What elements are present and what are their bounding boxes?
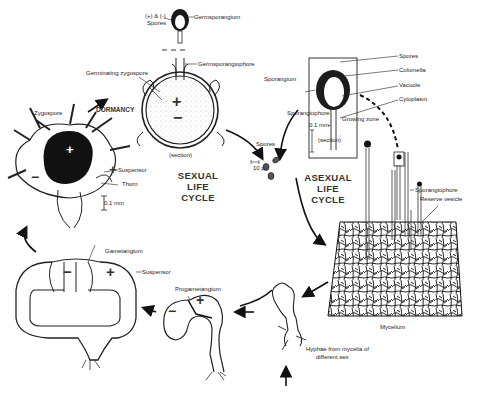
germ-zygospore-minus-sign: − xyxy=(173,112,183,123)
label-spores-center: Spores xyxy=(256,141,275,148)
label-vacuole: Vacuole xyxy=(399,82,420,89)
label-hyphae-line2: different sex xyxy=(316,354,349,361)
label-section-sexual: (section) xyxy=(169,152,192,159)
label-germsporangium: Germsporangium xyxy=(194,14,240,21)
label-thorn: Thorn xyxy=(122,181,138,188)
gametangium-minus-sign: − xyxy=(63,266,72,277)
label-hyphae-line1: Hyphae from mycelia of xyxy=(306,346,369,353)
label-sporangium: Sporangium xyxy=(264,76,296,83)
title-line: LIFE xyxy=(298,183,358,194)
label-scale-zygospore: 0.1 mm xyxy=(104,200,124,207)
label-germinating-zygospore: Germinating zygospore xyxy=(86,70,148,77)
germ-zygospore-plus-sign: + xyxy=(172,96,182,107)
label-suspensor-zygospore: Suspensor xyxy=(118,167,147,174)
label-cytoplasm: Cytoplasm xyxy=(399,96,427,103)
title-line: CYCLE xyxy=(168,192,228,203)
progametangium-plus-sign: + xyxy=(196,295,204,306)
label-spores-asexual: Spores xyxy=(399,53,418,60)
label-germsporangiophore: Germsporangiophore xyxy=(198,61,255,68)
label-suspensor-gametangium: Suspensor xyxy=(142,269,171,276)
progametangium-minus-sign: − xyxy=(168,306,176,317)
label-zygospore: Zygospore xyxy=(34,110,62,117)
zygospore-plus-sign-right: + xyxy=(109,164,117,175)
label-sporangiophore: Sporangiophore xyxy=(415,187,458,194)
rhizopus-life-cycle-diagram: + − + − + − + − + SEXUAL LIFE CYCLE ASEX… xyxy=(0,0,479,399)
asexual-life-cycle-title: ASEXUAL LIFE CYCLE xyxy=(298,172,358,205)
sexual-life-cycle-title: SEXUAL LIFE CYCLE xyxy=(168,170,228,203)
label-section-asexual: (section) xyxy=(318,137,341,144)
title-line: LIFE xyxy=(168,181,228,192)
gametangium-drawing xyxy=(16,259,136,370)
label-mycelium: Mycelium xyxy=(380,324,405,331)
zygospore-plus-sign: + xyxy=(66,144,74,155)
label-gametangium: Gametangium xyxy=(105,248,143,255)
title-line: CYCLE xyxy=(298,194,358,205)
label-spores-plus-minus: (+) & (-) xyxy=(145,13,166,20)
label-growing-zone: Growing zone xyxy=(342,116,379,123)
label-reserve-vesicle: Reserve vesicle xyxy=(420,196,462,203)
gametangium-plus-sign: + xyxy=(106,266,115,277)
zygospore-minus-sign: − xyxy=(31,172,39,183)
label-scale-inset: 0.1 mm xyxy=(309,122,329,129)
label-spore-scale: 10 μ xyxy=(253,165,265,172)
title-line: ASEXUAL xyxy=(298,172,358,183)
title-line: SEXUAL xyxy=(168,170,228,181)
label-columella: Columella xyxy=(399,67,426,74)
label-spores-top: Spores xyxy=(147,20,166,27)
mycelium-drawing xyxy=(328,141,462,317)
label-progametangium: Progametangium xyxy=(175,286,221,293)
label-sporangiophore-inset: Sporangiophore xyxy=(287,110,330,117)
label-dormancy: DORMANCY xyxy=(96,106,134,113)
hyphae-drawing xyxy=(272,283,306,350)
